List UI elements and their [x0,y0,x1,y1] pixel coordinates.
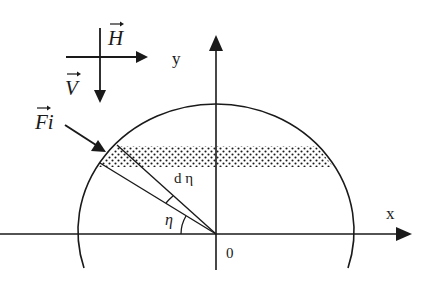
vector-h-label: H [108,28,123,49]
diagram-canvas [0,0,436,295]
d-eta-label: d η [174,171,193,186]
vector-v-arrowhead-icon [94,90,106,103]
vector-arrow-icon [110,21,124,27]
force-fi-arrowhead-icon [91,140,106,152]
eta-label: η [165,212,173,228]
vector-arrow-icon [67,71,81,77]
force-fi-arrow-shaft [65,125,96,145]
origin-label: 0 [226,246,234,261]
x-axis-label: x [386,205,395,222]
x-axis-arrowhead-icon [396,227,412,241]
vector-h-arrowhead-icon [136,51,148,63]
radius-line-lower [100,163,216,234]
force-fi-label: Fi [35,112,54,133]
d-eta-angle-arc [166,196,173,203]
vector-v-label: V [65,78,78,99]
y-axis-arrowhead-icon [209,35,223,51]
y-axis-label: y [172,50,181,67]
eta-angle-arc [181,216,186,234]
vector-arrow-icon [37,105,51,111]
